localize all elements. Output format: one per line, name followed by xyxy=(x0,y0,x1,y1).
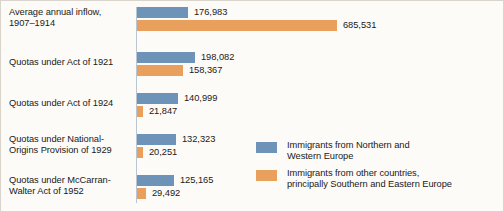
category-label-line1: Quotas under National- xyxy=(9,134,104,144)
bar-value-orange: 158,367 xyxy=(189,65,222,77)
bar-orange xyxy=(137,188,146,199)
bar-value-blue: 198,082 xyxy=(201,52,234,64)
category-label: Quotas under McCarran- Walter Act of 195… xyxy=(9,175,131,198)
legend-item-other-countries: Immigrants from other countries, princip… xyxy=(256,168,500,191)
chart-legend: Immigrants from Northern and Western Eur… xyxy=(256,140,500,196)
bar-value-orange: 21,847 xyxy=(149,106,177,118)
bar-blue xyxy=(137,52,195,63)
legend-label-line1: Immigrants from other countries, xyxy=(287,168,419,178)
bar-value-blue: 125,165 xyxy=(180,175,213,187)
legend-swatch-orange-icon xyxy=(256,170,277,181)
legend-label-line1: Immigrants from Northern and xyxy=(287,140,410,150)
category-label-line1: Quotas under McCarran- xyxy=(9,175,111,185)
bar-blue xyxy=(137,175,174,186)
category-label: Quotas under Act of 1924 xyxy=(9,98,131,109)
bar-value-orange: 20,251 xyxy=(149,147,177,159)
category-label: Quotas under Act of 1921 xyxy=(9,57,131,68)
bar-orange xyxy=(137,65,183,76)
bar-value-orange: 685,531 xyxy=(343,20,376,32)
bar-blue xyxy=(137,134,176,145)
immigration-quotas-bar-chart: Average annual inflow, 1907–1914 176,983… xyxy=(0,0,504,212)
category-label-line2: Origins Provision of 1929 xyxy=(9,145,112,155)
legend-swatch-blue-icon xyxy=(256,142,277,153)
category-label-line2: Walter Act of 1952 xyxy=(9,186,84,196)
category-label-line1: Quotas under Act of 1921 xyxy=(9,57,113,67)
bar-blue xyxy=(137,93,178,104)
category-label: Average annual inflow, 1907–1914 xyxy=(9,7,131,30)
category-label-line1: Average annual inflow, xyxy=(9,7,101,17)
legend-item-northern-western-europe: Immigrants from Northern and Western Eur… xyxy=(256,140,500,163)
legend-label: Immigrants from Northern and Western Eur… xyxy=(287,140,500,163)
bar-value-orange: 29,492 xyxy=(152,188,180,200)
legend-label-line2: Western Europe xyxy=(287,151,353,161)
bar-orange xyxy=(137,147,143,158)
legend-label-line2: principally Southern and Eastern Europe xyxy=(287,179,452,189)
bar-orange xyxy=(137,20,337,31)
legend-label: Immigrants from other countries, princip… xyxy=(287,168,500,191)
bar-value-blue: 176,983 xyxy=(194,7,227,19)
category-label: Quotas under National- Origins Provision… xyxy=(9,134,131,157)
bar-orange xyxy=(137,106,143,117)
category-label-line2: 1907–1914 xyxy=(9,18,55,28)
bar-value-blue: 140,999 xyxy=(184,93,217,105)
category-label-line1: Quotas under Act of 1924 xyxy=(9,98,113,108)
bar-blue xyxy=(137,7,188,18)
bar-value-blue: 132,323 xyxy=(182,134,215,146)
value-axis-spine xyxy=(136,7,137,203)
